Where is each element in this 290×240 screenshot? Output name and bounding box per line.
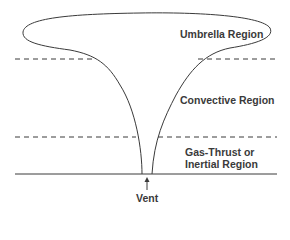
vent-label: Vent	[136, 192, 158, 205]
gas-thrust-region-label-line2: Inertial Region	[185, 158, 258, 171]
vent-arrow-icon	[145, 177, 150, 190]
convective-region-label: Convective Region	[180, 94, 275, 107]
umbrella-region-label: Umbrella Region	[180, 28, 263, 41]
